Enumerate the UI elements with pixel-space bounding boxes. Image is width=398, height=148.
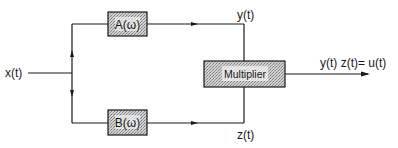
- block-a: A(ω): [108, 12, 147, 36]
- block-b: B(ω): [108, 110, 147, 135]
- output-label: y(t) z(t)= u(t): [320, 56, 386, 70]
- arrow-right-icon: [191, 121, 198, 125]
- arrow-down-icon: [70, 90, 74, 97]
- block-a-label: A(ω): [115, 18, 140, 32]
- arrow-right-icon: [191, 22, 198, 26]
- multiplier-label: Multiplier: [224, 68, 267, 80]
- arrow-up-icon: [70, 50, 74, 57]
- signal-z-label: z(t): [237, 128, 254, 142]
- arrow-right-icon: [361, 72, 370, 77]
- multiplier-block: Multiplier: [204, 61, 285, 87]
- block-b-label: B(ω): [115, 116, 140, 130]
- block-diagram: A(ω) B(ω) Multiplier x(t) y(t) z(t) y(t)…: [0, 0, 398, 148]
- top-branch-line: [72, 22, 244, 61]
- input-label: x(t): [5, 66, 22, 80]
- output-line: [285, 72, 370, 77]
- bottom-branch-line: [72, 87, 244, 125]
- signal-y-label: y(t): [237, 8, 254, 22]
